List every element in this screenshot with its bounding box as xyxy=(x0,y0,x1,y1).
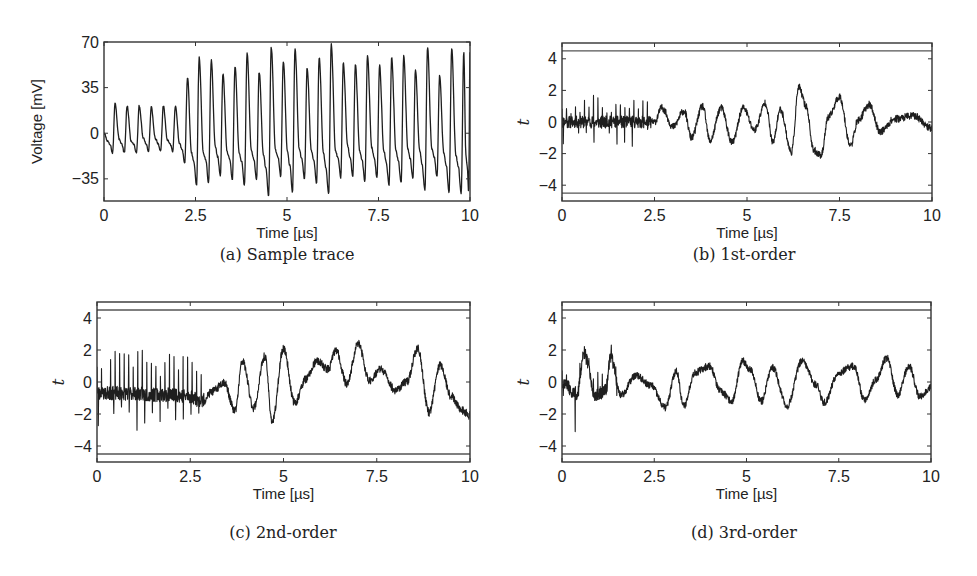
caption-3rd-order: (d) 3rd-order xyxy=(644,523,844,542)
x-tick-label: 7.5 xyxy=(828,468,850,485)
y-tick-label: 0 xyxy=(548,374,557,391)
y-tick-label: 2 xyxy=(548,342,557,359)
chart-3rd-order: 02.557.510420−2−4Time [µs]t xyxy=(0,0,977,576)
x-axis-label: Time [µs] xyxy=(716,485,777,502)
y-axis-label: t xyxy=(513,378,533,385)
x-tick-label: 0 xyxy=(558,468,567,485)
plot-area-frame xyxy=(562,302,931,462)
x-tick-label: 10 xyxy=(922,468,940,485)
x-tick-label: 2.5 xyxy=(643,468,665,485)
y-tick-label: 4 xyxy=(548,310,557,327)
x-tick-label: 5 xyxy=(742,468,751,485)
data-line xyxy=(562,345,931,432)
y-tick-label: −4 xyxy=(539,438,557,455)
y-tick-label: −2 xyxy=(539,406,557,423)
